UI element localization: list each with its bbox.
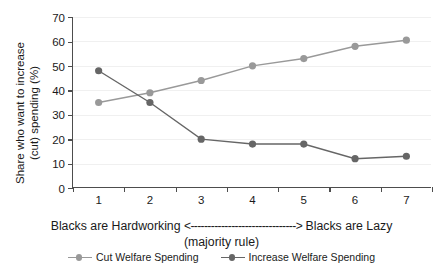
series-cut-welfare-spending <box>95 37 410 106</box>
legend-key-dot <box>76 254 83 261</box>
y-axis-tick: 10 <box>52 155 73 173</box>
legend-key-dot <box>229 254 236 261</box>
y-axis-tick-mark <box>68 139 73 140</box>
x-axis-caption: Blacks are Hardworking <----------------… <box>0 218 443 250</box>
data-point <box>351 43 358 50</box>
y-axis-tick-label: 20 <box>52 134 65 146</box>
x-axis-tick-label: 5 <box>301 194 307 206</box>
y-axis-tick: 30 <box>52 106 73 124</box>
chart-figure: Share who want to increase (cut) spendin… <box>0 0 443 276</box>
x-axis-tick-mark <box>432 187 433 192</box>
y-axis-tick-label: 10 <box>52 158 65 170</box>
x-axis-tick-mark <box>329 187 330 192</box>
y-axis-tick-label: 60 <box>52 36 65 48</box>
data-point <box>198 136 205 143</box>
x-axis-tick-label: 6 <box>352 194 358 206</box>
data-point <box>146 99 153 106</box>
y-axis-tick-label: 70 <box>52 12 65 24</box>
x-axis-tick-label: 1 <box>95 194 101 206</box>
caption-left-text: Blacks are Hardworking <box>51 219 181 233</box>
series-increase-welfare-spending <box>95 67 410 162</box>
y-axis-tick-mark <box>68 42 73 43</box>
data-series-layer <box>73 17 432 188</box>
legend-key-icon <box>68 253 92 262</box>
data-point <box>351 155 358 162</box>
caption-arrow: <-------------------------------> <box>184 219 302 233</box>
y-axis-title: Share who want to increase (cut) spendin… <box>13 13 49 213</box>
x-axis-tick-mark <box>124 187 125 192</box>
y-axis-tick-label: 50 <box>52 61 65 73</box>
y-axis-title-line-1: Share who want to increase <box>13 13 27 213</box>
data-point <box>300 140 307 147</box>
y-axis-tick-mark <box>68 164 73 165</box>
y-axis-tick-mark <box>68 115 73 116</box>
x-axis-tick-mark <box>176 187 177 192</box>
legend-item[interactable]: Increase Welfare Spending <box>221 251 375 263</box>
x-axis-tick-mark <box>73 187 74 192</box>
chart-legend: Cut Welfare SpendingIncrease Welfare Spe… <box>0 251 443 263</box>
y-axis-title-line-2: (cut) spending (%) <box>27 13 41 213</box>
x-axis-tick-mark <box>227 187 228 192</box>
data-point <box>95 99 102 106</box>
data-point <box>146 89 153 96</box>
data-point <box>249 140 256 147</box>
x-axis-tick-mark <box>278 187 279 192</box>
legend-key-icon <box>221 253 245 262</box>
y-axis-tick-mark <box>68 17 73 18</box>
x-axis-caption-line-2: (majority rule) <box>0 234 443 250</box>
data-point <box>403 37 410 44</box>
legend-item[interactable]: Cut Welfare Spending <box>68 251 199 263</box>
y-axis-tick-mark <box>68 90 73 91</box>
x-axis-caption-line-1: Blacks are Hardworking <----------------… <box>0 218 443 234</box>
y-axis-tick: 20 <box>52 130 73 148</box>
y-axis-tick-mark <box>68 66 73 67</box>
data-point <box>403 153 410 160</box>
plot-inner <box>73 17 431 187</box>
y-axis-tick: 60 <box>52 32 73 50</box>
data-point <box>249 62 256 69</box>
y-axis-tick: 40 <box>52 81 73 99</box>
y-axis-tick-label: 40 <box>52 85 65 97</box>
data-point <box>198 77 205 84</box>
legend-label: Increase Welfare Spending <box>249 251 375 263</box>
y-axis-tick-label: 30 <box>52 109 65 121</box>
data-point <box>300 55 307 62</box>
data-point <box>95 67 102 74</box>
plot-area: 706050403020100 1234567 <box>72 17 431 188</box>
y-axis-tick: 0 <box>59 179 73 197</box>
y-axis-tick-label: 0 <box>59 183 65 195</box>
x-axis-tick-mark <box>381 187 382 192</box>
x-axis-tick-label: 2 <box>147 194 153 206</box>
y-axis-tick: 70 <box>52 8 73 26</box>
x-axis-tick-label: 3 <box>198 194 204 206</box>
series-line <box>99 40 407 102</box>
y-axis-tick: 50 <box>52 57 73 75</box>
x-axis-tick-label: 7 <box>403 194 409 206</box>
x-axis-tick-label: 4 <box>249 194 255 206</box>
caption-right-text: Blacks are Lazy <box>306 219 393 233</box>
legend-label: Cut Welfare Spending <box>96 251 199 263</box>
